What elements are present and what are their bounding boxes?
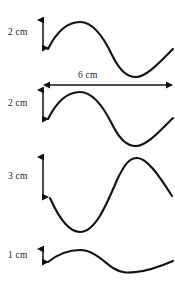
wavelength-label: 6 cm: [78, 70, 98, 80]
amplitude-label-4: 1 cm: [8, 250, 28, 260]
amplitude-label-1: 2 cm: [8, 27, 28, 37]
figure-canvas: [0, 0, 175, 289]
wave-curve-2: [48, 92, 173, 146]
wave-amplitude-wavelength-figure: 2 cm 6 cm 2 cm 3 cm 1 cm: [0, 0, 175, 289]
wave-curve-3: [50, 158, 172, 232]
amplitude-label-2: 2 cm: [8, 98, 28, 108]
amplitude-label-3: 3 cm: [8, 171, 28, 181]
wave-curve-4: [48, 250, 173, 273]
wave-curve-1: [48, 22, 173, 77]
